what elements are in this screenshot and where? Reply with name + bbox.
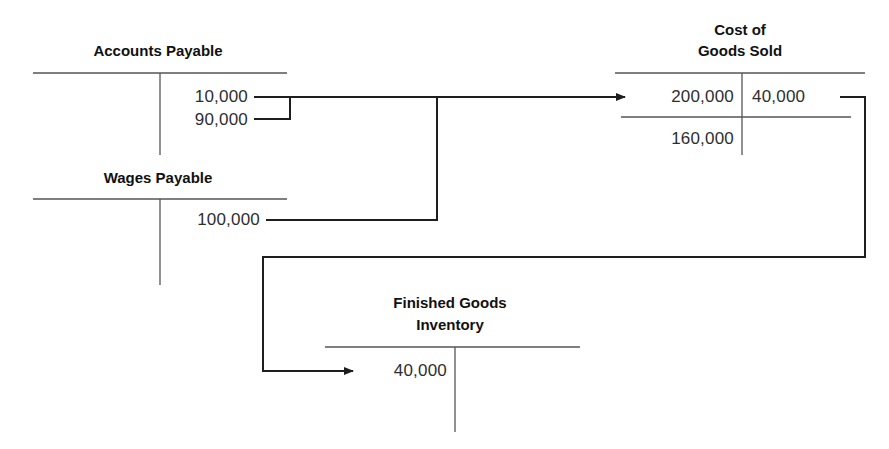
flow-arrow-accounts-payable-to-cogs — [254, 97, 625, 119]
flow-arrow-wages-payable-to-cogs — [266, 97, 437, 220]
wages-payable-credit-1: 100,000 — [160, 210, 260, 230]
diagram-lines — [0, 0, 889, 449]
cogs-title-line-2: Goods Sold — [640, 40, 840, 62]
wages-payable-title: Wages Payable — [58, 167, 258, 189]
t-account-fgi-rule — [325, 347, 580, 432]
cogs-balance: 160,000 — [630, 129, 734, 149]
accounts-payable-credit-1: 10,000 — [160, 87, 248, 107]
cogs-title-line-1: Cost of — [640, 19, 840, 41]
fgi-title-line-2: Inventory — [350, 314, 550, 336]
cogs-credit-1: 40,000 — [752, 87, 832, 107]
accounts-payable-credit-2: 90,000 — [160, 110, 248, 130]
fgi-debit-1: 40,000 — [355, 361, 447, 381]
accounts-payable-title: Accounts Payable — [58, 40, 258, 62]
cogs-debit-1: 200,000 — [630, 87, 734, 107]
fgi-title-line-1: Finished Goods — [350, 292, 550, 314]
